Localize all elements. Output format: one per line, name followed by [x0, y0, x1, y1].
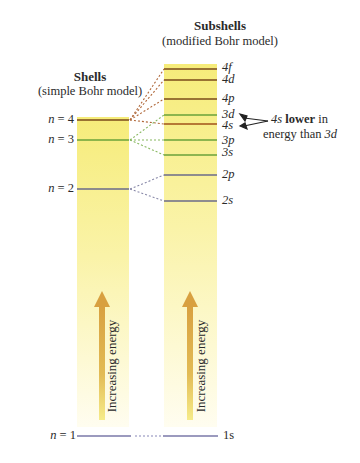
shell-label-n4: n = 4 [48, 112, 74, 127]
subshells-subtitle: (modified Bohr model) [140, 34, 300, 49]
subshell-label-2p: 2p [222, 167, 235, 182]
shell-label-n3: n = 3 [48, 132, 74, 147]
connector-lines [130, 69, 164, 436]
shells-title: Shells [20, 69, 160, 85]
subshell-label-3s: 3s [222, 145, 233, 160]
shell-label-n2: n = 2 [48, 181, 74, 196]
shells-subtitle: (simple Bohr model) [10, 84, 170, 99]
increasing-energy-label-right: Increasing energy [193, 311, 209, 421]
subshell-label-2s: 2s [222, 193, 233, 208]
annotation-text: 4s lower in energy than 3d [271, 112, 337, 142]
subshells-title: Subshells [150, 18, 290, 34]
subshell-label-4p: 4p [222, 91, 235, 106]
subshell-label-4s: 4s [222, 118, 233, 133]
shell-label-n1: n = 1 [50, 428, 76, 443]
subshell-label-1s: 1s [223, 428, 234, 443]
subshell-label-4d: 4d [222, 72, 235, 87]
increasing-energy-label-left: Increasing energy [104, 311, 120, 421]
